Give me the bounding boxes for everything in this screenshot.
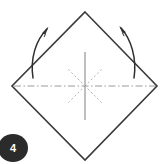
step-badge-label: 4 — [10, 142, 17, 154]
diagram-canvas: 4 — [0, 0, 164, 164]
origami-step-diagram: 4 — [0, 0, 164, 164]
